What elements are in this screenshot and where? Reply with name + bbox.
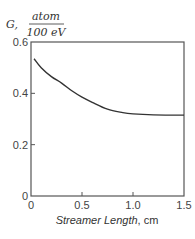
x-ticks: 00.51.01.5	[28, 192, 192, 211]
series-line	[34, 59, 184, 115]
y-axis-label-prefix: G,	[6, 18, 18, 31]
y-tick-label: 0.4	[13, 87, 28, 99]
x-axis-label-unit: , cm	[138, 214, 159, 226]
x-tick-label: 1.5	[176, 199, 191, 211]
plot-frame	[31, 42, 184, 196]
y-tick-label: 0.2	[13, 139, 28, 151]
y-axis-label-denominator: 100 eV	[27, 26, 67, 39]
x-tick-label: 1.0	[125, 199, 140, 211]
x-axis-label-main: Streamer Length	[56, 214, 138, 226]
x-tick-label: 0.5	[74, 199, 89, 211]
chart: G, atom 100 eV 00.20.40.6 00.51.01.5 Str…	[0, 0, 195, 239]
y-axis-label-numerator: atom	[32, 10, 60, 23]
x-tick-label: 0	[28, 199, 34, 211]
y-ticks: 00.20.40.6	[13, 36, 35, 202]
x-axis-label: Streamer Length, cm	[56, 214, 159, 226]
y-tick-label: 0.6	[13, 36, 28, 48]
